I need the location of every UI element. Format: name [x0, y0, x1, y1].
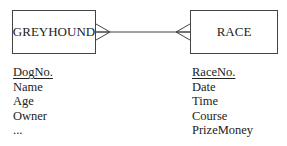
greyhound-attribute-ellipsis: ...: [13, 123, 53, 138]
race-attribute: Course: [192, 109, 253, 124]
race-primary-key: RaceNo.: [192, 65, 253, 80]
race-attributes: RaceNo. Date Time Course PrizeMoney ...: [192, 65, 253, 145]
greyhound-attribute: Owner: [13, 109, 53, 124]
greyhound-attribute: Name: [13, 80, 53, 95]
greyhound-attribute: Age: [13, 94, 53, 109]
crows-foot-many-greyhound-icon: [96, 24, 110, 40]
race-attribute: Time: [192, 94, 253, 109]
race-attribute: PrizeMoney: [192, 123, 253, 138]
crows-foot-many-race-icon: [176, 24, 190, 40]
race-attribute: Date: [192, 80, 253, 95]
race-attribute-ellipsis: ...: [192, 138, 253, 146]
greyhound-primary-key: DogNo.: [13, 65, 53, 80]
greyhound-attributes: DogNo. Name Age Owner ...: [13, 65, 53, 138]
